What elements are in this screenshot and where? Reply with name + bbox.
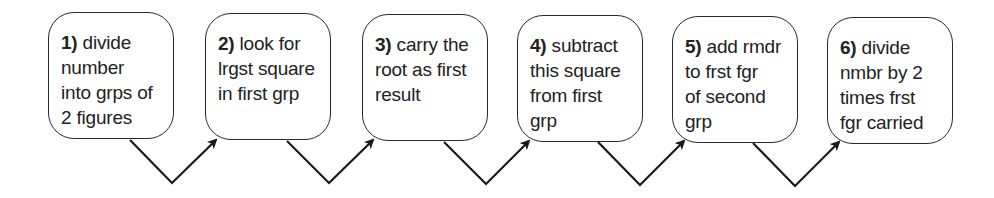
step-box-6: 6) divide nmbr by 2 times frst fgr carri… bbox=[827, 17, 953, 144]
step-2-line-2: lrgst square bbox=[218, 56, 330, 81]
step-5-text: add rmdr bbox=[707, 36, 781, 57]
step-box-2: 2) look for lrgst square in first grp bbox=[205, 13, 331, 140]
step-4-line-4: grp bbox=[530, 108, 642, 133]
step-3-line-3: result bbox=[375, 82, 487, 107]
step-box-5: 5) add rmdr to frst fgr of second grp bbox=[672, 16, 798, 143]
step-2-line-3: in first grp bbox=[218, 81, 330, 106]
step-5-line-4: grp bbox=[685, 109, 797, 134]
process-diagram: 1) divide number into grps of 2 figures … bbox=[0, 0, 994, 198]
connector-arrow-1-to-2 bbox=[130, 140, 216, 183]
step-4-line-3: from first bbox=[530, 83, 642, 108]
connector-arrow-3-to-4 bbox=[444, 141, 529, 184]
step-1-number: 1) bbox=[61, 32, 78, 53]
connector-arrow-2-to-3 bbox=[287, 140, 373, 183]
connector-arrow-4-to-5 bbox=[598, 141, 684, 185]
step-5-line-3: of second bbox=[685, 84, 797, 109]
step-3-text: carry the bbox=[397, 34, 469, 55]
step-6-line-3: times frst bbox=[840, 85, 952, 110]
step-1-line-2: number bbox=[61, 55, 173, 80]
step-2-number: 2) bbox=[218, 33, 235, 54]
step-box-1: 1) divide number into grps of 2 figures bbox=[48, 12, 174, 139]
step-6-line-2: nmbr by 2 bbox=[840, 60, 952, 85]
step-2-text: look for bbox=[240, 33, 301, 54]
step-4-text: subtract bbox=[552, 35, 618, 56]
step-5-line-2: to frst fgr bbox=[685, 59, 797, 84]
step-6-line-1: 6) divide bbox=[840, 35, 952, 60]
step-2-line-1: 2) look for bbox=[218, 31, 330, 56]
step-6-text: divide bbox=[862, 37, 910, 58]
step-1-line-3: into grps of bbox=[61, 80, 173, 105]
step-1-line-1: 1) divide bbox=[61, 30, 173, 55]
step-box-3: 3) carry the root as first result bbox=[362, 14, 488, 141]
step-5-number: 5) bbox=[685, 36, 702, 57]
step-5-line-1: 5) add rmdr bbox=[685, 34, 797, 59]
step-1-line-4: 2 figures bbox=[61, 105, 173, 130]
step-6-number: 6) bbox=[840, 37, 857, 58]
step-3-line-2: root as first bbox=[375, 57, 487, 82]
step-3-line-1: 3) carry the bbox=[375, 32, 487, 57]
step-6-line-4: fgr carried bbox=[840, 110, 952, 135]
step-1-text: divide bbox=[83, 32, 131, 53]
connector-arrow-5-to-6 bbox=[753, 142, 839, 186]
step-box-4: 4) subtract this square from first grp bbox=[517, 15, 643, 142]
step-4-line-2: this square bbox=[530, 58, 642, 83]
step-4-line-1: 4) subtract bbox=[530, 33, 642, 58]
step-4-number: 4) bbox=[530, 35, 547, 56]
step-3-number: 3) bbox=[375, 34, 392, 55]
